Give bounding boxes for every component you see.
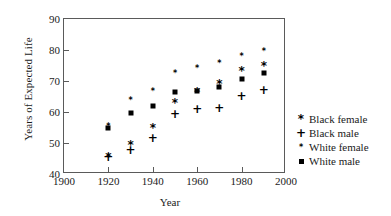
scatter-chart-figure: Years of Expected Life Year 405060708090… bbox=[0, 0, 391, 216]
data-point-asterisk-small: * bbox=[151, 88, 155, 96]
legend-label: Black male bbox=[309, 127, 359, 139]
x-tick-label: 1900 bbox=[53, 175, 75, 187]
legend-item: *Black female bbox=[296, 112, 369, 126]
legend-label: Black female bbox=[309, 113, 367, 125]
data-point-asterisk-small: * bbox=[195, 65, 199, 73]
data-point-plus: + bbox=[103, 151, 113, 163]
x-tick-mark bbox=[242, 167, 243, 172]
data-point-filled-square bbox=[128, 110, 133, 115]
x-tick-label: 1980 bbox=[231, 175, 253, 187]
data-point-asterisk-large: * bbox=[238, 65, 244, 77]
data-point-filled-square bbox=[106, 126, 111, 131]
x-tick-mark bbox=[197, 167, 198, 172]
data-point-asterisk-small: * bbox=[217, 60, 221, 68]
data-point-plus: + bbox=[126, 144, 136, 156]
x-tick-mark bbox=[153, 167, 154, 172]
x-tick-label: 1960 bbox=[186, 175, 208, 187]
data-point-asterisk-small: * bbox=[173, 70, 177, 78]
y-tick-label: 50 bbox=[49, 137, 60, 149]
data-point-plus: + bbox=[237, 90, 247, 102]
y-tick-mark bbox=[64, 112, 69, 113]
legend-label: White male bbox=[309, 155, 360, 167]
data-point-asterisk-small: * bbox=[106, 123, 110, 131]
legend-marker-icon bbox=[296, 154, 306, 168]
data-point-asterisk-large: * bbox=[172, 97, 178, 109]
x-tick-label: 1940 bbox=[142, 175, 164, 187]
data-point-asterisk-small: * bbox=[129, 97, 133, 105]
plot-area: 405060708090 190019201940196019802000 **… bbox=[63, 18, 285, 173]
y-tick-mark bbox=[64, 50, 69, 51]
y-tick-label: 80 bbox=[49, 44, 60, 56]
legend-item: *White female bbox=[296, 140, 369, 154]
data-point-plus: + bbox=[259, 84, 269, 96]
y-tick-mark bbox=[64, 143, 69, 144]
data-point-filled-square bbox=[150, 103, 155, 108]
data-point-filled-square bbox=[239, 77, 244, 82]
chart-legend: *Black female+Black male*White femaleWhi… bbox=[296, 112, 369, 168]
y-axis-title: Years of Expected Life bbox=[22, 14, 34, 164]
data-point-filled-square bbox=[173, 89, 178, 94]
data-point-asterisk-small: * bbox=[240, 53, 244, 61]
legend-item: White male bbox=[296, 154, 369, 168]
data-point-plus: + bbox=[214, 102, 224, 114]
filled-square-icon bbox=[299, 159, 304, 164]
data-point-asterisk-large: * bbox=[216, 78, 222, 90]
y-tick-label: 60 bbox=[49, 106, 60, 118]
legend-item: +Black male bbox=[296, 126, 369, 140]
x-tick-label: 2000 bbox=[275, 175, 297, 187]
data-point-plus: + bbox=[148, 132, 158, 144]
data-point-asterisk-large: * bbox=[127, 139, 133, 151]
x-tick-label: 1920 bbox=[97, 175, 119, 187]
data-point-asterisk-large: * bbox=[261, 60, 267, 72]
data-point-filled-square bbox=[261, 70, 266, 75]
legend-marker-icon: * bbox=[296, 112, 306, 126]
data-point-filled-square bbox=[195, 89, 200, 94]
x-tick-mark bbox=[108, 167, 109, 172]
y-tick-mark bbox=[64, 81, 69, 82]
legend-marker-icon: + bbox=[296, 126, 306, 140]
y-tick-label: 90 bbox=[49, 13, 60, 25]
data-point-asterisk-small: * bbox=[262, 48, 266, 56]
data-point-asterisk-large: * bbox=[105, 151, 111, 163]
legend-label: White female bbox=[309, 141, 369, 153]
data-point-filled-square bbox=[217, 85, 222, 90]
x-axis-title: Year bbox=[55, 196, 285, 208]
data-point-plus: + bbox=[170, 108, 180, 120]
data-point-asterisk-large: * bbox=[194, 86, 200, 98]
data-point-asterisk-large: * bbox=[150, 122, 156, 134]
legend-marker-icon: * bbox=[296, 140, 306, 154]
data-point-plus: + bbox=[192, 103, 202, 115]
y-tick-label: 70 bbox=[49, 75, 60, 87]
